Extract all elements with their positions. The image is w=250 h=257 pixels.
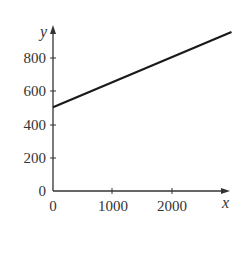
y-axis-arrow-icon [50,25,56,34]
x-tick-label-0: 0 [49,198,57,214]
x-axis-label: x [221,194,229,211]
y-tick-label-800: 800 [24,50,47,66]
y-tick-label-0: 0 [39,183,47,199]
line-chart: 0 200 400 600 800 0 1000 2000 y x [0,0,250,257]
data-line [53,32,232,107]
axes [50,25,230,194]
y-tick-label-200: 200 [24,150,47,166]
y-tick-label-400: 400 [24,117,47,133]
x-tick-label-2000: 2000 [157,198,187,214]
y-tick-label-600: 600 [24,83,47,99]
x-tick-label-1000: 1000 [98,198,128,214]
y-axis-label: y [38,23,48,41]
